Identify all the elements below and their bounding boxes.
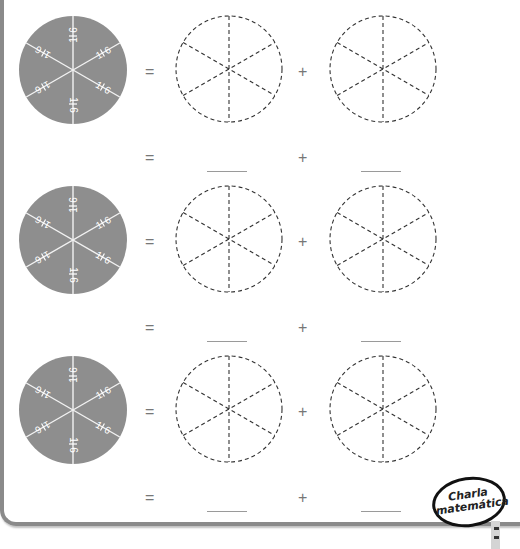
svg-text:1: 1 <box>68 37 79 43</box>
plus-sign: + <box>298 150 307 166</box>
equals-sign: = <box>145 404 154 420</box>
plus-sign: + <box>298 64 307 80</box>
fraction-pie: 1 6 1 6 1 6 1 6 1 6 1 6 <box>17 184 129 300</box>
dashed-pie-left[interactable] <box>173 13 285 129</box>
fraction-blank-right[interactable] <box>361 341 401 342</box>
svg-text:6: 6 <box>68 27 79 33</box>
svg-text:1: 1 <box>68 97 79 103</box>
dashed-pie-left[interactable] <box>173 183 285 299</box>
fraction-blank-left[interactable] <box>207 511 247 512</box>
svg-text:6: 6 <box>68 197 79 203</box>
equals-sign: = <box>145 320 154 336</box>
equals-sign: = <box>145 490 154 506</box>
dashed-pie-right[interactable] <box>327 353 439 469</box>
svg-text:1: 1 <box>68 267 79 273</box>
equals-sign: = <box>145 234 154 250</box>
plus-sign: + <box>298 404 307 420</box>
plus-sign: + <box>298 234 307 250</box>
svg-text:6: 6 <box>68 367 79 373</box>
svg-text:1: 1 <box>68 207 79 213</box>
svg-text:1: 1 <box>68 377 79 383</box>
fraction-pie: 1 6 1 6 1 6 1 6 1 6 1 6 <box>17 354 129 470</box>
fraction-blank-right[interactable] <box>361 171 401 172</box>
svg-text:6: 6 <box>68 107 79 113</box>
svg-text:1: 1 <box>68 437 79 443</box>
dashed-pie-left[interactable] <box>173 353 285 469</box>
equals-sign: = <box>145 150 154 166</box>
fraction-pie: 1 6 1 6 1 6 1 6 1 6 1 6 <box>17 14 129 130</box>
dashed-pie-right[interactable] <box>327 13 439 129</box>
plus-sign: + <box>298 490 307 506</box>
page-edge-tab <box>491 521 500 549</box>
fraction-blank-right[interactable] <box>361 511 401 512</box>
dashed-pie-right[interactable] <box>327 183 439 299</box>
equals-sign: = <box>145 64 154 80</box>
plus-sign: + <box>298 320 307 336</box>
svg-text:6: 6 <box>68 277 79 283</box>
svg-text:6: 6 <box>68 447 79 453</box>
fraction-blank-left[interactable] <box>207 171 247 172</box>
fraction-blank-left[interactable] <box>207 341 247 342</box>
